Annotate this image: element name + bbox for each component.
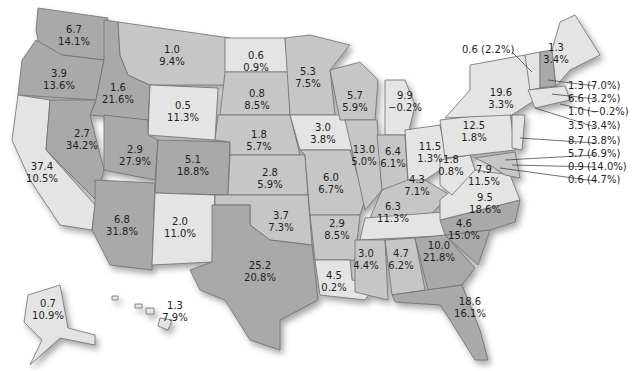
callout-NH: 1.3 (7.0%) xyxy=(568,80,620,92)
label-MT: 1.09.4% xyxy=(159,44,184,68)
label-MN: 5.37.5% xyxy=(295,66,320,90)
label-NY: 19.63.3% xyxy=(488,87,513,111)
callout-RI: 1.0 (−0.2%) xyxy=(568,106,629,118)
label-PA: 12.51.8% xyxy=(461,120,486,144)
label-AK: 0.710.9% xyxy=(32,298,64,322)
state-NJ[interactable] xyxy=(512,115,525,150)
callout-DE: 0.9 (14.0%) xyxy=(568,161,627,173)
label-SD: 0.88.5% xyxy=(244,88,269,112)
label-ND: 0.60.9% xyxy=(243,50,268,74)
state-AK[interactable] xyxy=(24,285,95,365)
label-GA: 10.021.8% xyxy=(423,240,455,264)
us-map xyxy=(0,0,632,371)
label-NM: 2.011.0% xyxy=(164,216,196,240)
label-OK: 3.77.3% xyxy=(268,210,293,234)
callout-MD: 5.7 (6.9%) xyxy=(568,148,620,160)
label-WV: 1.80.8% xyxy=(438,154,463,178)
label-MI: 9.9−0.2% xyxy=(388,90,422,114)
label-NE: 1.85.7% xyxy=(246,129,271,153)
label-ME: 1.33.4% xyxy=(543,42,568,66)
label-VA: 7.911.5% xyxy=(468,164,500,188)
label-FL: 18.616.1% xyxy=(454,296,486,320)
label-IA: 3.03.8% xyxy=(310,122,335,146)
label-SC: 4.615.0% xyxy=(448,218,480,242)
callout-MA: 6.6 (3.2%) xyxy=(568,93,620,105)
label-CO: 5.118.8% xyxy=(177,154,209,178)
label-WY: 0.511.3% xyxy=(167,100,199,124)
callout-VT: 0.6 (2.2%) xyxy=(462,44,514,56)
label-NV: 2.734.2% xyxy=(66,128,98,152)
callout-DC: 0.6 (4.7%) xyxy=(568,174,620,186)
callout-NJ: 8.7 (3.8%) xyxy=(568,135,620,147)
label-MS: 3.04.4% xyxy=(353,248,378,272)
label-UT: 2.927.9% xyxy=(119,144,151,168)
label-MO: 6.06.7% xyxy=(318,172,343,196)
label-AL: 4.76.2% xyxy=(388,248,413,272)
label-OR: 3.913.6% xyxy=(43,68,75,92)
contiguous-states xyxy=(12,8,600,360)
alaska-hawaii xyxy=(24,285,172,365)
label-TN: 6.311.3% xyxy=(377,201,409,225)
label-LA: 4.50.2% xyxy=(321,270,346,294)
label-CA: 37.410.5% xyxy=(26,161,58,185)
label-KY: 4.37.1% xyxy=(404,174,429,198)
label-AZ: 6.831.8% xyxy=(106,214,138,238)
label-NC: 9.518.6% xyxy=(469,192,501,216)
label-AR: 2.98.5% xyxy=(324,218,349,242)
label-ID: 1.621.6% xyxy=(102,82,134,106)
label-KS: 2.85.9% xyxy=(257,167,282,191)
label-HI: 1.37.9% xyxy=(162,300,187,324)
label-WA: 6.714.1% xyxy=(58,24,90,48)
label-IL: 13.05.0% xyxy=(351,144,376,168)
label-TX: 25.220.8% xyxy=(244,260,276,284)
label-WI: 5.75.9% xyxy=(342,90,367,114)
callout-CT: 3.5 (3.4%) xyxy=(568,120,620,132)
label-IN: 6.46.1% xyxy=(380,146,405,170)
